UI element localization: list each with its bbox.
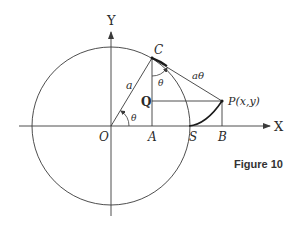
angle-arc-origin (121, 111, 129, 126)
label-theta-origin: θ (131, 113, 137, 123)
label-o: O (99, 130, 109, 144)
label-radius-a: a (126, 79, 133, 92)
label-c: C (154, 43, 163, 57)
contact-arc (152, 58, 167, 66)
point-p-dot (220, 99, 223, 102)
label-q: Q (141, 95, 151, 109)
figure-caption: Figure 10 (234, 158, 283, 170)
y-axis-label: Y (106, 13, 116, 28)
x-axis-label: X (274, 119, 284, 134)
label-tangent-a-theta: aθ (192, 70, 204, 81)
label-b: B (217, 130, 227, 144)
label-a: A (147, 130, 157, 144)
point-c-dot (151, 57, 154, 60)
label-theta-c: θ (158, 78, 164, 88)
label-s: S (189, 130, 197, 144)
angle-arc-c (152, 68, 167, 76)
involute-diagram: Y X C O A S B Q P(x,y) a aθ θ θ Figure 1… (0, 0, 296, 231)
label-p: P(x,y) (227, 95, 260, 108)
involute-curve (189, 101, 222, 126)
